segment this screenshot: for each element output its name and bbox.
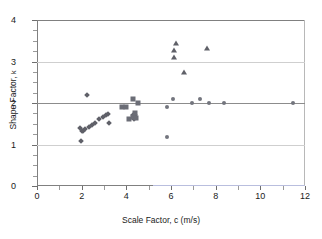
y-minor-tick [33,41,37,42]
data-point-circle [190,101,194,105]
x-tick-label: 6 [161,192,181,201]
x-tick-label: 4 [116,192,136,201]
x-minor-tick [283,186,284,190]
data-point-circle [198,97,202,101]
y-minor-tick [33,113,37,114]
data-point-circle [222,101,226,105]
plot-frame-top [37,20,305,21]
y-major-tick [32,20,37,21]
x-tick-label: 8 [206,192,226,201]
y-minor-tick [33,165,37,166]
data-point-square [133,111,138,116]
x-tick-label: 10 [250,192,270,201]
y-minor-tick [33,176,37,177]
x-major-tick [305,186,306,190]
x-major-tick [126,186,127,190]
data-point-square [130,96,135,101]
y-axis-title-main: Shape Factor, [8,74,18,129]
scatter-chart: 01234 024681012 Scale Factor, c (m/s) Sh… [0,0,322,239]
data-point-diamond [84,92,90,98]
y-major-tick [32,145,37,146]
x-axis-title: Scale Factor, c (m/s) [0,215,322,225]
data-point-triangle [204,45,210,50]
data-point-square [123,105,128,110]
data-point-circle [171,97,175,101]
data-point-square [135,101,140,106]
data-point-diamond [92,120,98,126]
gridline [37,62,305,63]
x-major-tick [82,186,83,190]
x-tick-label: 0 [27,192,47,201]
y-tick-label: 0 [0,182,16,191]
data-point-circle [165,105,169,109]
data-point-triangle [181,69,187,74]
gridline [37,145,305,146]
x-minor-tick [104,186,105,190]
x-minor-tick [193,186,194,190]
x-minor-tick [59,186,60,190]
y-major-tick [32,62,37,63]
y-minor-tick [33,124,37,125]
data-point-circle [291,101,295,105]
data-point-circle [165,135,169,139]
data-point-triangle [171,47,177,52]
plot-area [37,20,305,186]
x-major-tick [171,186,172,190]
y-minor-tick [33,155,37,156]
x-tick-label: 12 [295,192,315,201]
y-minor-tick [33,93,37,94]
x-minor-tick [149,186,150,190]
y-minor-tick [33,82,37,83]
y-minor-tick [33,134,37,135]
data-point-diamond [78,138,84,144]
y-major-tick [32,103,37,104]
y-axis-title: Shape Factor, k [8,40,18,160]
x-major-tick [260,186,261,190]
y-minor-tick [33,72,37,73]
data-point-square [134,116,139,121]
data-point-triangle [173,41,179,46]
y-axis-title-symbol: k [10,71,17,75]
gridline [37,103,305,104]
x-major-tick [216,186,217,190]
y-tick-label: 4 [0,16,16,25]
x-tick-label: 2 [72,192,92,201]
y-minor-tick [33,51,37,52]
data-point-triangle [171,54,177,59]
data-point-diamond [106,120,112,126]
x-minor-tick [238,186,239,190]
data-point-circle [207,101,211,105]
y-minor-tick [33,30,37,31]
x-major-tick [37,186,38,190]
